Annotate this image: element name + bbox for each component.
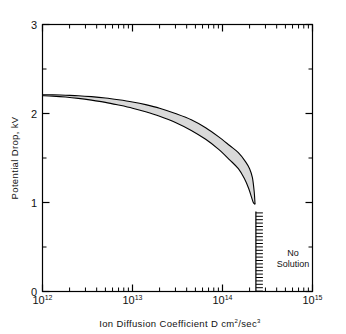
figure-container: 1012101310141015 0123 No Solution Potent… (0, 0, 346, 334)
y-tick-label: 2 (31, 108, 37, 120)
potential-drop-vs-diffusion-coefficient-chart: 1012101310141015 0123 No Solution Potent… (0, 0, 346, 334)
y-tick-label: 0 (31, 286, 37, 298)
no-solution-label-line1: No (287, 248, 299, 258)
no-solution-label-line2: Solution (277, 259, 310, 269)
y-tick-label: 1 (31, 197, 37, 209)
y-axis-title: Potential Drop, kV (9, 116, 20, 199)
y-tick-label: 3 (31, 19, 37, 31)
chart-background (0, 0, 346, 334)
